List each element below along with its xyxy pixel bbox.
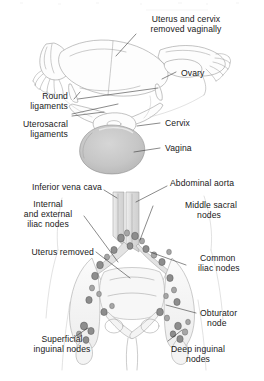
node-iliac-left-3 <box>86 296 92 303</box>
label-iliac-nodes-line3: iliac nodes <box>27 219 69 229</box>
node-iliac-left-1 <box>92 272 99 280</box>
leader-cervix <box>137 123 160 126</box>
lower-panel-node-map: Inferior vena cava Abdominal aorta Inter… <box>24 178 240 370</box>
anatomy-figure: Uterus and cervix removed vaginally Ovar… <box>0 0 264 381</box>
node-iliac-left-4 <box>97 291 102 297</box>
node-iliac-right-2 <box>171 287 176 293</box>
label-iliac-nodes-line1: Internal <box>33 199 62 209</box>
label-round-ligaments-line2: ligaments <box>30 101 68 111</box>
node-common-iliac-left-1 <box>111 246 117 253</box>
label-abdominal-aorta: Abdominal aorta <box>170 178 234 188</box>
leader-abdominal-aorta <box>136 186 167 202</box>
upper-panel-specimen: Uterus and cervix removed vaginally Ovar… <box>23 14 231 174</box>
uterine-body-broad-ligament <box>59 40 168 96</box>
node-common-iliac-right-4 <box>167 249 172 255</box>
node-obturator-right-2 <box>164 315 169 321</box>
label-middle-sacral-line2: nodes <box>197 210 221 220</box>
node-iliac-left-2 <box>89 285 94 291</box>
node-obturator-left <box>101 308 107 315</box>
label-deep-inguinal-line1: Deep inguinal <box>171 344 225 354</box>
node-deep-inguinal-3 <box>177 335 183 342</box>
label-obturator-line2: node <box>207 318 227 328</box>
node-iliac-right-1 <box>167 274 173 281</box>
node-obturator-right <box>157 308 164 316</box>
node-deep-inguinal-4 <box>186 319 191 325</box>
node-deep-inguinal-5 <box>170 331 176 337</box>
scan-artifact <box>20 2 239 11</box>
label-uterus-removed-lower: Uterus removed <box>31 247 94 257</box>
label-round-ligaments-line1: Round <box>42 91 68 101</box>
label-obturator-line1: Obturator <box>200 308 237 318</box>
label-superficial-inguinal-line1: Superficial <box>41 334 82 344</box>
label-deep-inguinal-line2: nodes <box>186 354 210 364</box>
node-iliac-right-3 <box>174 298 180 305</box>
label-cervix: Cervix <box>165 118 191 128</box>
node-paraaortic-mid <box>124 230 129 236</box>
label-iliac-nodes-line2: and external <box>24 209 73 219</box>
label-middle-sacral-line1: Middle sacral <box>185 200 237 210</box>
node-common-iliac-left-3 <box>97 261 104 269</box>
node-common-iliac-right-1 <box>143 245 149 252</box>
node-obturator-left-2 <box>110 303 115 309</box>
label-common-iliac-line2: iliac nodes <box>198 263 240 273</box>
label-common-iliac-line1: Common <box>200 253 236 263</box>
label-superficial-inguinal-line2: inguinal nodes <box>34 344 91 354</box>
node-common-iliac-right-3 <box>159 258 165 265</box>
node-superficial-inguinal-2 <box>88 327 94 334</box>
label-uterosacral-line1: Uterosacral <box>23 119 68 129</box>
node-superficial-inguinal-4 <box>83 337 89 344</box>
leader-middle-sacral <box>140 206 153 240</box>
label-inferior-vena-cava: Inferior vena cava <box>32 182 102 192</box>
node-deep-inguinal-1 <box>175 322 182 330</box>
node-iliac-right-4 <box>164 293 169 299</box>
label-uterus-removed-line1: Uterus and cervix <box>152 14 221 24</box>
label-vagina: Vagina <box>165 143 192 153</box>
label-ovary: Ovary <box>181 68 205 78</box>
label-uterus-removed-line2: removed vaginally <box>151 24 223 34</box>
node-middle-sacral-3 <box>127 243 133 250</box>
node-paraaortic-left <box>118 234 125 242</box>
vagina-shape <box>80 125 145 174</box>
label-uterosacral-line2: ligaments <box>30 129 68 139</box>
node-middle-sacral-1 <box>132 232 139 240</box>
node-deep-inguinal-2 <box>182 329 188 335</box>
